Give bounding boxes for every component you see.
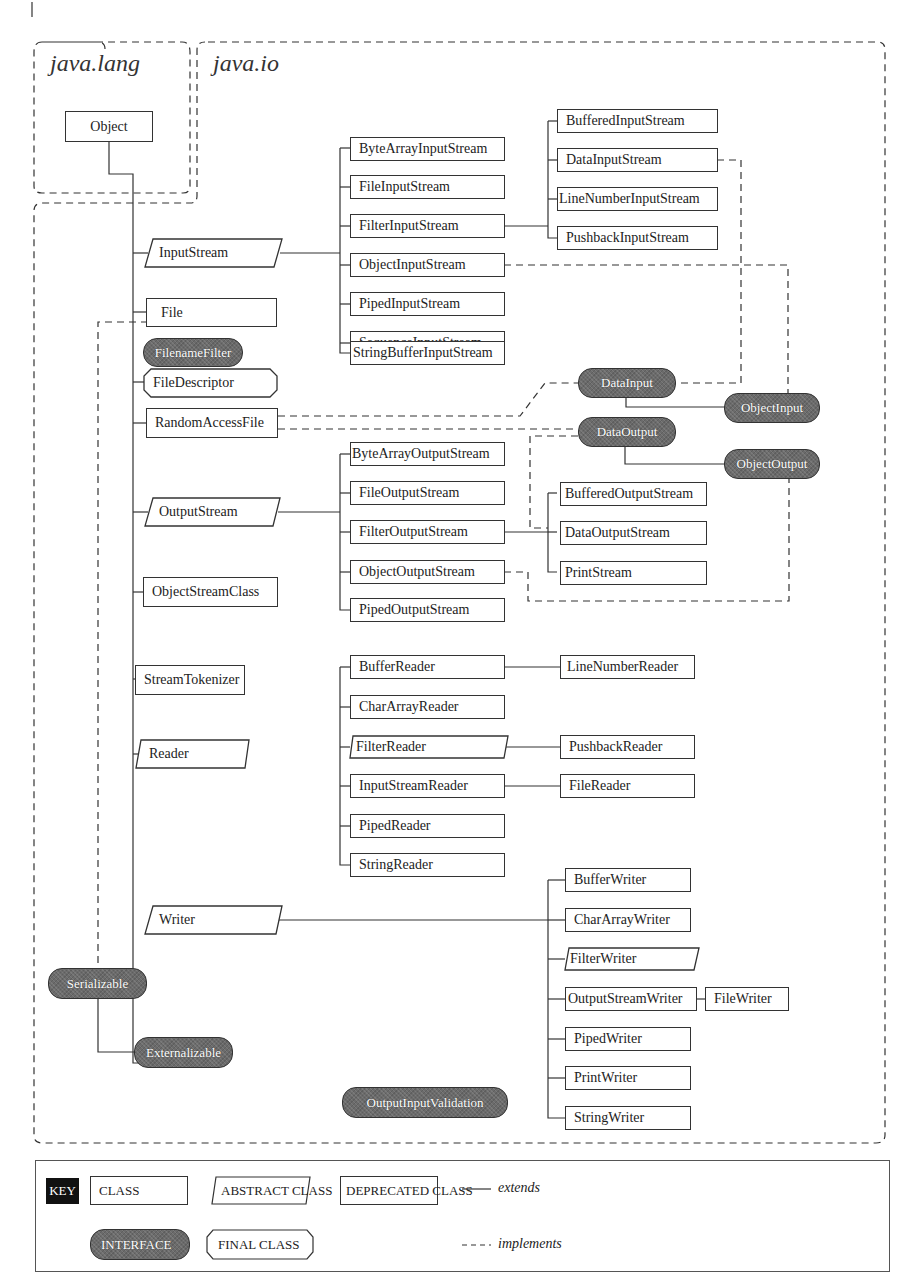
class-label: OutputStream [143, 504, 238, 520]
legend-final-class-sample: FINAL CLASS [206, 1229, 314, 1260]
class-label: CharArrayReader [359, 699, 459, 715]
interface-serializable[interactable]: Serializable [48, 968, 147, 999]
class-bufferwriter[interactable]: BufferWriter [565, 868, 691, 892]
class-stringbufferinputstream[interactable]: StringBufferInputStream [350, 341, 505, 365]
interface-label: Serializable [67, 976, 128, 992]
interface-label: ObjectInput [741, 400, 803, 416]
class-object[interactable]: Object [65, 111, 153, 142]
class-label: FilterReader [349, 739, 426, 755]
class-label: CharArrayWriter [574, 912, 670, 928]
class-label: BufferedOutputStream [565, 486, 693, 502]
class-label: DataOutputStream [565, 525, 670, 541]
interface-filenamefilter[interactable]: FilenameFilter [143, 338, 243, 367]
class-stringreader[interactable]: StringReader [350, 853, 505, 877]
class-label: FilterOutputStream [359, 524, 468, 540]
class-label: FileDescriptor [143, 375, 234, 391]
package-label-java-lang: java.lang [50, 50, 140, 77]
final-class-filedescriptor[interactable]: FileDescriptor [143, 368, 278, 398]
abstract-class-filterwriter[interactable]: FilterWriter [564, 947, 700, 971]
class-filereader[interactable]: FileReader [560, 774, 695, 798]
interface-objectinput[interactable]: ObjectInput [724, 393, 820, 423]
class-label: ObjectStreamClass [152, 584, 259, 600]
abstract-class-outputstream[interactable]: OutputStream [143, 497, 281, 527]
class-label: StringWriter [574, 1110, 644, 1126]
interface-label: FilenameFilter [155, 345, 232, 361]
class-bytearrayoutputstream[interactable]: ByteArrayOutputStream [350, 442, 505, 466]
class-bytearrayinputstream[interactable]: ByteArrayInputStream [350, 137, 505, 161]
class-label: ByteArrayOutputStream [352, 446, 490, 462]
class-label: LineNumberReader [567, 659, 678, 675]
class-label: Writer [143, 912, 195, 928]
java-io-class-hierarchy-diagram: java.lang java.io Object InputStream Fil… [0, 0, 917, 1277]
interface-dataoutput[interactable]: DataOutput [578, 417, 676, 447]
class-bufferedoutputstream[interactable]: BufferedOutputStream [560, 482, 707, 506]
class-label: PipedReader [359, 818, 431, 834]
class-label: PushbackInputStream [566, 230, 689, 246]
legend-abstract-class-sample: ABSTRACT CLASS [211, 1176, 311, 1205]
class-dataoutputstream[interactable]: DataOutputStream [560, 521, 707, 545]
class-pipedreader[interactable]: PipedReader [350, 814, 505, 838]
class-datainputstream[interactable]: DataInputStream [557, 148, 718, 172]
legend-deprecated-class-sample: DEPRECATED CLASS [340, 1176, 438, 1205]
class-label: PushbackReader [569, 739, 662, 755]
class-objectinputstream[interactable]: ObjectInputStream [350, 253, 505, 277]
class-label: OutputStreamWriter [568, 991, 683, 1007]
class-label: ByteArrayInputStream [359, 141, 487, 157]
class-fileoutputstream[interactable]: FileOutputStream [350, 481, 505, 505]
class-printwriter[interactable]: PrintWriter [565, 1066, 691, 1090]
abstract-class-filterreader[interactable]: FilterReader [349, 735, 509, 759]
class-inputstreamreader[interactable]: InputStreamReader [350, 774, 505, 798]
class-bufferedinputstream[interactable]: BufferedInputStream [557, 109, 718, 133]
class-pushbackinputstream[interactable]: PushbackInputStream [557, 226, 718, 250]
class-label: PrintStream [565, 565, 632, 581]
class-printstream[interactable]: PrintStream [560, 561, 707, 585]
abstract-class-inputstream[interactable]: InputStream [143, 238, 283, 268]
class-label: FileInputStream [359, 179, 450, 195]
legend-class-sample: CLASS [90, 1176, 188, 1205]
class-pipedinputstream[interactable]: PipedInputStream [350, 292, 505, 316]
class-label: PipedInputStream [359, 296, 460, 312]
interface-outputinputvalidation[interactable]: OutputInputValidation [342, 1087, 508, 1118]
class-randomaccessfile[interactable]: RandomAccessFile [146, 408, 278, 438]
interface-datainput[interactable]: DataInput [578, 368, 676, 398]
class-label: StringReader [359, 857, 433, 873]
class-label: File [155, 305, 183, 321]
class-label: Object [90, 119, 127, 135]
class-filterinputstream[interactable]: FilterInputStream [350, 214, 505, 238]
class-filewriter[interactable]: FileWriter [705, 987, 789, 1011]
class-chararraywriter[interactable]: CharArrayWriter [565, 908, 691, 932]
interface-label: Externalizable [146, 1045, 221, 1061]
interface-label: OutputInputValidation [367, 1095, 484, 1111]
abstract-class-writer[interactable]: Writer [143, 905, 283, 935]
abstract-class-reader[interactable]: Reader [135, 739, 250, 769]
class-stringwriter[interactable]: StringWriter [565, 1106, 691, 1130]
interface-objectoutput[interactable]: ObjectOutput [724, 449, 820, 479]
class-streamtokenizer[interactable]: StreamTokenizer [135, 665, 245, 695]
class-label: BufferReader [359, 659, 435, 675]
class-pipedoutputstream[interactable]: PipedOutputStream [350, 598, 505, 622]
legend-label: CLASS [99, 1183, 139, 1199]
class-label: DataInputStream [566, 152, 662, 168]
class-bufferreader[interactable]: BufferReader [350, 655, 505, 679]
legend-interface-sample: INTERFACE [90, 1229, 190, 1260]
interface-externalizable[interactable]: Externalizable [134, 1037, 233, 1068]
class-label: InputStream [143, 245, 228, 261]
class-file[interactable]: File [146, 298, 277, 327]
class-chararrayreader[interactable]: CharArrayReader [350, 695, 505, 719]
package-label-java-io: java.io [213, 50, 279, 77]
class-fileinputstream[interactable]: FileInputStream [350, 175, 505, 199]
class-outputstreamwriter[interactable]: OutputStreamWriter [565, 987, 697, 1011]
class-linenumberinputstream[interactable]: LineNumberInputStream [557, 187, 718, 211]
class-pushbackreader[interactable]: PushbackReader [560, 735, 695, 759]
class-label: PipedOutputStream [359, 602, 469, 618]
class-label: LineNumberInputStream [559, 191, 700, 207]
class-objectstreamclass[interactable]: ObjectStreamClass [143, 577, 278, 607]
class-label: BufferedInputStream [566, 113, 685, 129]
class-filteroutputstream[interactable]: FilterOutputStream [350, 520, 505, 544]
class-label: Reader [135, 746, 189, 762]
interface-label: DataOutput [597, 424, 658, 440]
class-linenumberreader[interactable]: LineNumberReader [560, 655, 695, 679]
class-label: FileOutputStream [359, 485, 459, 501]
class-pipedwriter[interactable]: PipedWriter [565, 1027, 691, 1051]
class-objectoutputstream[interactable]: ObjectOutputStream [350, 560, 505, 584]
